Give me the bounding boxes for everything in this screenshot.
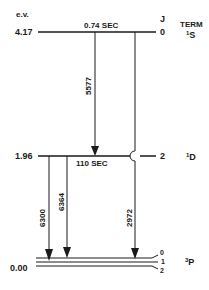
- energy-label-1s: 4.17: [15, 28, 33, 37]
- j-column-header: J: [160, 15, 165, 24]
- arrowhead-icon: [63, 247, 71, 258]
- term-label-1d: 1D: [186, 153, 196, 162]
- wavelength-label-6364: 6364: [58, 193, 66, 211]
- wavelength-label-5577: 5577: [85, 77, 93, 95]
- arrowhead-icon: [91, 146, 99, 156]
- lifetime-label-1s: 0.74 SEC: [84, 22, 118, 30]
- j-label-1s: 0: [160, 28, 165, 37]
- lifetime-label-1d: 110 SEC: [76, 160, 108, 168]
- energy-label-3p: 0.00: [10, 264, 28, 273]
- term-column-header: TERM: [180, 21, 203, 29]
- wavelength-label-6300: 6300: [39, 209, 47, 227]
- term-label-3p: 3P: [185, 258, 194, 267]
- j-label-3p-2: 2: [160, 267, 164, 274]
- level-3p-j2-line: [36, 266, 158, 269]
- energy-diagram-lines: [0, 0, 209, 290]
- term-label-1s: 1S: [186, 31, 195, 40]
- j-label-1d: 2: [160, 152, 165, 161]
- energy-axis-label: e.v.: [16, 11, 29, 19]
- wavelength-label-2972: 2972: [126, 209, 134, 227]
- j-label-3p-0: 0: [160, 249, 164, 256]
- arrowhead-icon: [131, 248, 139, 259]
- arrowhead-icon: [45, 249, 53, 261]
- j-label-3p-1: 1: [161, 258, 165, 265]
- level-3p-j0-line: [36, 255, 158, 258]
- energy-label-1d: 1.96: [15, 152, 33, 161]
